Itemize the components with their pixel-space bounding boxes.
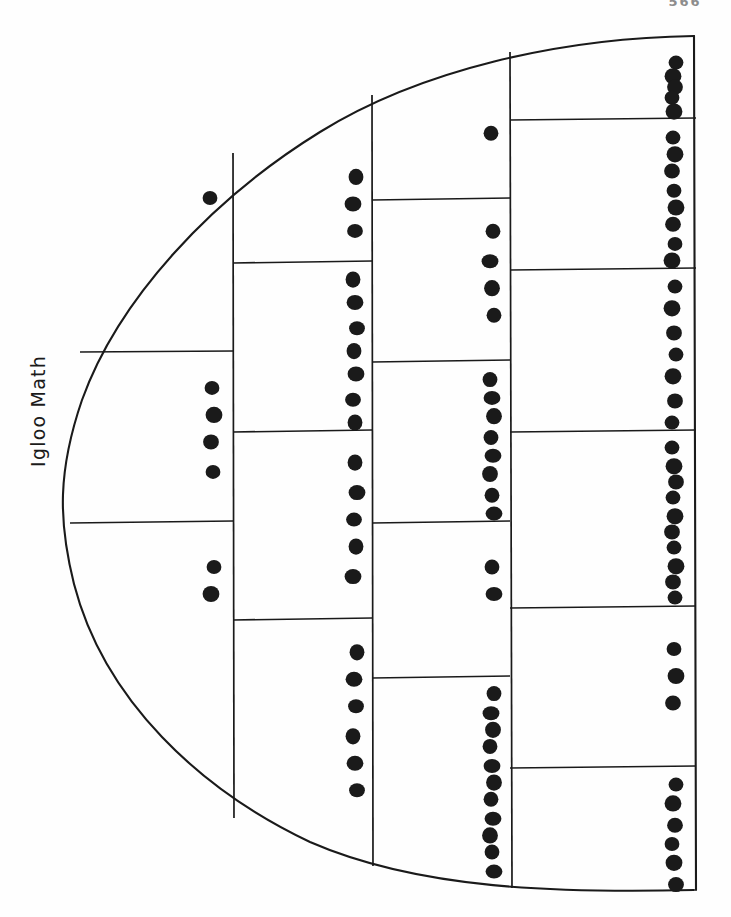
tally-dot bbox=[669, 348, 684, 362]
tally-dot bbox=[346, 672, 363, 687]
tally-dot bbox=[667, 393, 683, 408]
column-divider-3 bbox=[510, 52, 512, 888]
tally-dot bbox=[666, 855, 683, 871]
tally-dot bbox=[666, 458, 683, 474]
tally-dot bbox=[668, 474, 684, 489]
tally-dot bbox=[348, 455, 363, 471]
tally-dot bbox=[485, 449, 502, 463]
tally-dot bbox=[484, 126, 499, 141]
tally-dot bbox=[667, 508, 684, 524]
tally-dot bbox=[349, 169, 364, 185]
tally-dot bbox=[667, 541, 682, 555]
tally-dot bbox=[666, 104, 683, 120]
column-divider-1 bbox=[233, 153, 234, 818]
row-divider-c2-1 bbox=[233, 261, 372, 263]
tally-dot bbox=[347, 224, 363, 238]
tally-dot bbox=[347, 756, 364, 771]
tally-dot bbox=[668, 877, 684, 892]
tally-dot bbox=[668, 280, 683, 294]
dot-group-column-1-r1 bbox=[203, 191, 218, 205]
dot-group-column-3-r3 bbox=[482, 372, 502, 520]
row-divider-c1-1 bbox=[80, 351, 233, 352]
dot-group-column-4-r3 bbox=[664, 280, 684, 430]
tally-dot bbox=[486, 587, 503, 601]
dot-group-column-3-r2 bbox=[482, 224, 502, 323]
row-divider-c3-1 bbox=[372, 198, 510, 200]
tally-dot bbox=[348, 415, 363, 431]
row-divider-c4-4 bbox=[510, 606, 696, 608]
row-divider-c3-4 bbox=[372, 676, 510, 678]
tally-dot bbox=[664, 164, 680, 179]
tally-dot bbox=[206, 407, 223, 423]
tally-dot bbox=[203, 434, 219, 449]
tally-dot bbox=[665, 368, 682, 384]
dot-group-column-3-r4 bbox=[485, 560, 503, 602]
tally-dot bbox=[666, 491, 681, 505]
tally-dot bbox=[665, 416, 680, 430]
column-divider-group bbox=[233, 52, 512, 888]
tally-dot bbox=[666, 325, 682, 340]
tally-dot bbox=[486, 408, 502, 424]
tally-dot bbox=[203, 191, 218, 205]
tally-dot bbox=[346, 272, 361, 288]
tally-dot bbox=[484, 280, 500, 296]
tally-dot bbox=[483, 706, 500, 720]
igloo-dome-outline bbox=[63, 36, 694, 891]
tally-dot bbox=[668, 591, 683, 605]
tally-dot bbox=[345, 393, 361, 407]
tally-dot bbox=[484, 792, 499, 807]
tally-dot bbox=[669, 56, 684, 70]
row-divider-c2-3 bbox=[233, 618, 372, 620]
tally-dot bbox=[487, 686, 502, 701]
dot-group-column-3-r1 bbox=[484, 126, 499, 141]
tally-dot bbox=[665, 837, 680, 851]
row-divider-group bbox=[70, 118, 696, 768]
row-divider-c4-5 bbox=[510, 766, 696, 768]
tally-dot bbox=[664, 300, 681, 316]
tally-dot bbox=[485, 845, 500, 860]
igloo-right-edge bbox=[694, 36, 696, 890]
tally-dot bbox=[347, 295, 364, 310]
igloo-outline-group bbox=[63, 36, 696, 891]
tally-dot bbox=[668, 237, 683, 251]
tally-dot bbox=[668, 199, 685, 215]
tally-dot bbox=[205, 381, 220, 395]
tally-dot bbox=[346, 513, 362, 527]
tally-dot bbox=[345, 196, 362, 211]
tally-dot bbox=[667, 146, 684, 162]
tally-dot bbox=[485, 488, 500, 503]
tally-dot bbox=[667, 818, 683, 833]
tally-dot bbox=[483, 739, 498, 754]
dot-group-column-4-r5 bbox=[665, 642, 684, 711]
dot-group-column-2-r1 bbox=[345, 169, 364, 238]
tally-dot bbox=[486, 507, 503, 521]
tally-dot bbox=[486, 775, 502, 791]
tally-dot bbox=[482, 827, 498, 843]
tally-dot bbox=[348, 366, 365, 381]
row-divider-c1-2 bbox=[70, 521, 233, 523]
tally-dot bbox=[350, 644, 365, 660]
tally-dot bbox=[669, 778, 684, 792]
row-divider-c2-2 bbox=[233, 430, 372, 432]
tally-dot bbox=[203, 586, 220, 602]
tally-dot bbox=[484, 391, 501, 405]
tally-dot bbox=[483, 372, 498, 387]
tally-dot bbox=[482, 466, 498, 482]
dot-group-column-1-r3 bbox=[203, 560, 222, 602]
tally-dot bbox=[345, 569, 362, 584]
tally-dot bbox=[665, 574, 681, 589]
dot-group-column-3-r5 bbox=[482, 686, 502, 879]
tally-dot bbox=[666, 131, 681, 145]
tally-dot bbox=[664, 524, 680, 539]
tally-dot bbox=[665, 91, 680, 105]
tally-dot bbox=[667, 184, 682, 198]
worksheet-page: 566 Igloo Math bbox=[0, 0, 731, 917]
row-divider-c4-1 bbox=[510, 118, 696, 120]
igloo-diagram bbox=[0, 0, 731, 917]
row-divider-c3-2 bbox=[372, 360, 510, 362]
tally-dot bbox=[668, 558, 685, 574]
tally-dot bbox=[485, 722, 501, 738]
tally-dot bbox=[665, 217, 681, 232]
tally-dot bbox=[207, 560, 222, 574]
dot-group-column-2-r3 bbox=[345, 455, 366, 585]
